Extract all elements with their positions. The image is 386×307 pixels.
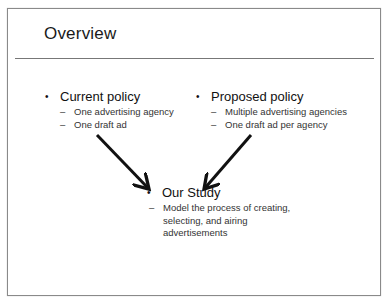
dash-icon: – — [149, 202, 154, 215]
arrow-icon — [205, 135, 251, 188]
sub-item: – Model the process of creating, selecti… — [163, 202, 303, 240]
bullet-our-study: • Our Study — [162, 185, 221, 200]
bullet-label: Our Study — [162, 185, 221, 200]
arrow-icon — [97, 135, 148, 188]
arrows-diagram — [0, 0, 386, 307]
bullet-dot-icon: • — [147, 187, 151, 198]
